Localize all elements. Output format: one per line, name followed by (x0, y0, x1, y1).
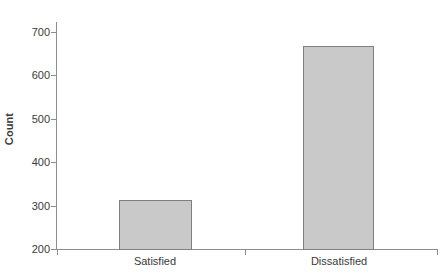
y-tick-label: 200 (22, 244, 50, 255)
x-tick-mark (245, 250, 246, 255)
bar-chart: Count 700 600 500 400 300 200 Satisfied … (0, 0, 444, 279)
x-tick-mark (57, 250, 58, 255)
y-tick-label: 400 (22, 157, 50, 168)
y-tick-label: 300 (22, 201, 50, 212)
y-tick-label: 700 (22, 27, 50, 38)
bottom-caption (104, 272, 444, 279)
bar-dissatisfied (303, 46, 374, 250)
x-axis-line (56, 249, 438, 250)
y-tick-label: 500 (22, 114, 50, 125)
y-axis-line (56, 22, 57, 250)
y-axis-title: Count (3, 84, 15, 174)
bar-satisfied (119, 200, 192, 250)
x-tick-mark (437, 250, 438, 255)
x-category-label-dissatisfied: Dissatisfied (288, 255, 390, 267)
y-tick-label: 600 (22, 70, 50, 81)
y-axis-tick-labels: 700 600 500 400 300 200 (22, 0, 50, 279)
x-category-label-satisfied: Satisfied (105, 255, 205, 267)
